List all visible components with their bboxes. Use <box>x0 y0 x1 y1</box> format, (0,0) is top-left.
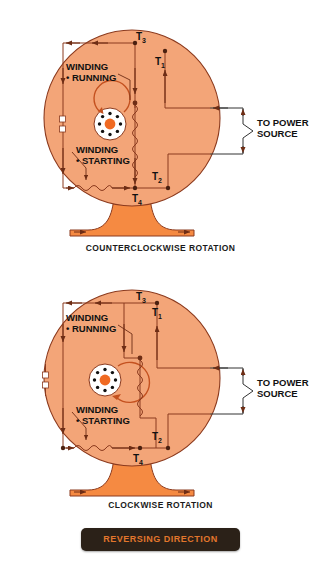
reversing-direction-button-wrap: REVERSING DIRECTION <box>0 528 321 551</box>
label-winding-running-line1: WINDING <box>66 61 108 72</box>
motor-schematic-cw: WINDING • RUNNING WINDING • STARTING T3 … <box>0 268 321 500</box>
motor-diagram-counterclockwise: WINDING • RUNNING WINDING • STARTING T3 … <box>0 8 321 240</box>
label-winding-running-line2: • RUNNING <box>66 72 116 83</box>
motor-schematic-ccw: WINDING • RUNNING WINDING • STARTING T3 … <box>0 8 321 240</box>
reversing-direction-button[interactable]: REVERSING DIRECTION <box>81 528 240 551</box>
power-label-line1: TO POWER <box>257 377 309 388</box>
caption-clockwise: CLOCKWISE ROTATION <box>0 500 321 510</box>
junction-t2 <box>166 446 170 450</box>
label-winding-starting-line1: WINDING <box>76 144 118 155</box>
power-label-line1: TO POWER <box>257 117 309 128</box>
contact-upper <box>60 116 66 122</box>
contact-lower <box>43 382 49 388</box>
motor-diagram-clockwise: WINDING • RUNNING WINDING • STARTING T3 … <box>0 268 321 500</box>
junction-t4 <box>133 186 137 190</box>
label-winding-starting-line2: • STARTING <box>76 415 130 426</box>
power-label-line2: SOURCE <box>257 128 298 139</box>
running-winding-node <box>133 101 138 106</box>
caption-counterclockwise: COUNTERCLOCKWISE ROTATION <box>0 243 321 253</box>
figure-root: WINDING • RUNNING WINDING • STARTING T3 … <box>0 0 321 578</box>
label-winding-starting-line1: WINDING <box>76 404 118 415</box>
label-winding-running-line2: • RUNNING <box>66 323 116 334</box>
junction-t4 <box>138 446 142 450</box>
junction-t1 <box>163 49 167 53</box>
power-label-line2: SOURCE <box>257 388 298 399</box>
contact-lower <box>60 126 66 132</box>
junction-t3 <box>155 301 159 305</box>
motor-housing <box>44 30 220 206</box>
junction-left-bottom <box>61 446 65 450</box>
running-winding-node <box>138 356 143 361</box>
junction-t2 <box>166 186 170 190</box>
contact-upper <box>43 372 49 378</box>
label-winding-running-line1: WINDING <box>66 312 108 323</box>
label-winding-starting-line2: • STARTING <box>76 155 130 166</box>
